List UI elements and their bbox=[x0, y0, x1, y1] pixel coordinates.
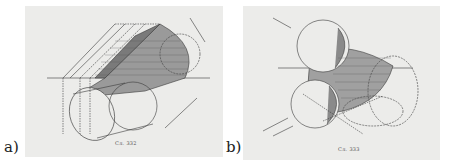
figure-panel-b: Сл. 333 bbox=[243, 6, 440, 160]
panel-label-a: a) bbox=[4, 138, 19, 156]
figure-panel-a: Сл. 332 bbox=[25, 6, 223, 157]
cylinder-shadow-diagram bbox=[25, 6, 223, 157]
figure-caption-b: Сл. 333 bbox=[338, 146, 360, 152]
spheres-cylinder-diagram bbox=[243, 6, 440, 160]
figure-caption-a: Сл. 332 bbox=[115, 140, 137, 146]
panel-label-b: b) bbox=[226, 138, 241, 156]
